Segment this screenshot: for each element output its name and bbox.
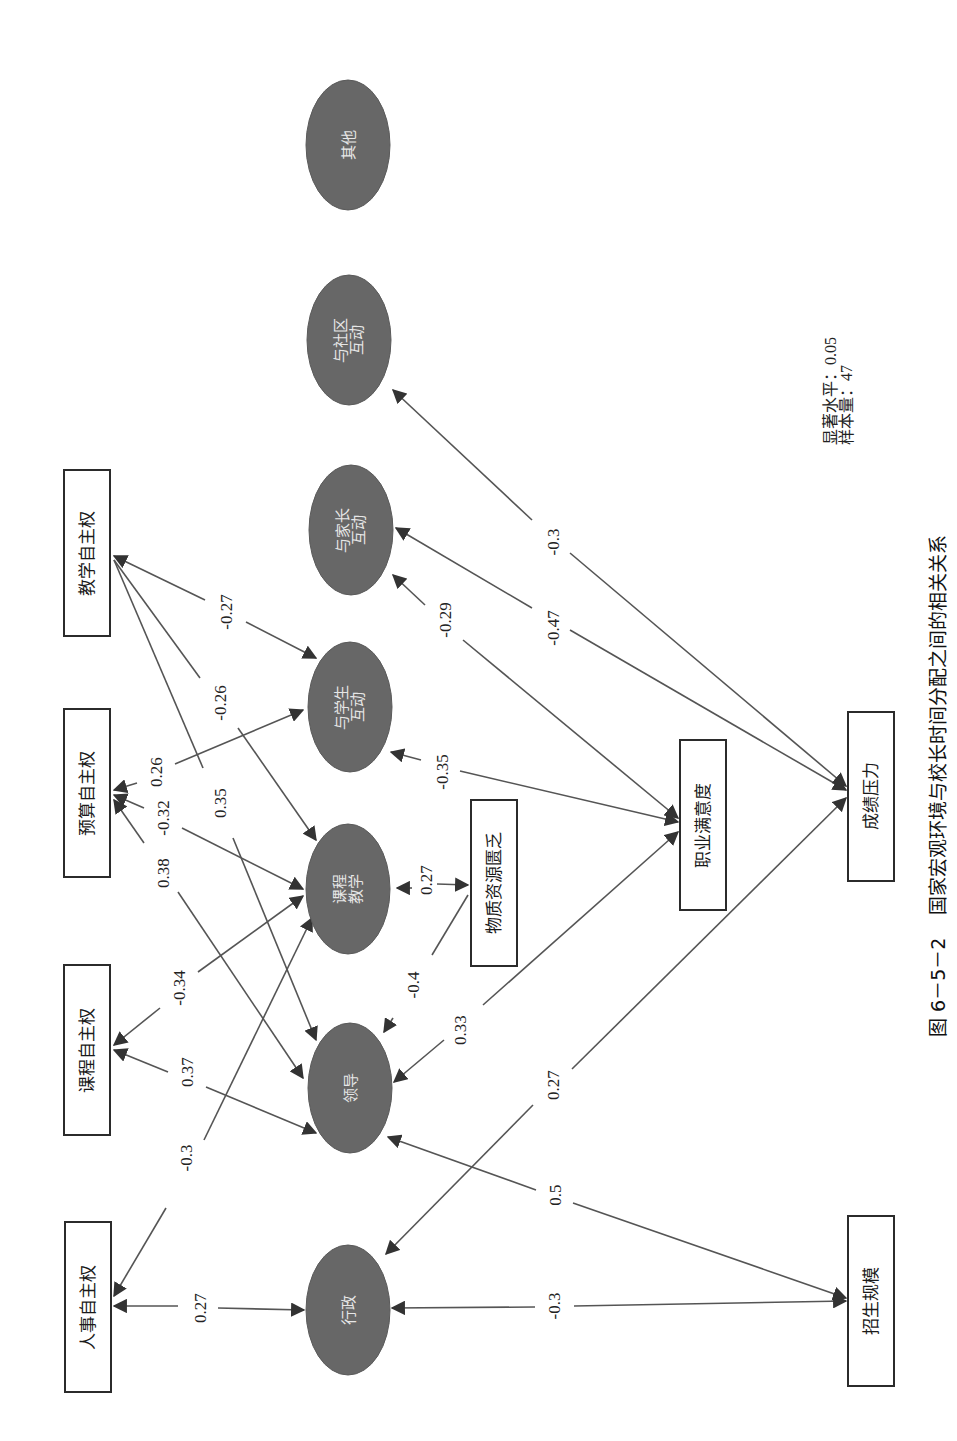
significance-note: 显著水平：0.05 样本量：47: [822, 337, 855, 445]
edge-yusuan-xuesheng: [114, 783, 137, 790]
node-kecheng-jiaoxue: 课程 教学: [306, 824, 390, 954]
edge-kczzq-kcjx-2: [198, 896, 303, 972]
node-xingzheng: 行政: [306, 1245, 390, 1375]
weight-label: 0.38: [154, 858, 173, 888]
edge-zhaosheng-lingdao: [388, 1137, 536, 1190]
weight-label: -0.4: [404, 971, 423, 998]
node-label-line2: 互动: [350, 515, 368, 545]
edge-kczzq-kcjx: [114, 1008, 160, 1045]
weight-label: 0.27: [544, 1070, 563, 1100]
edge-jiaoxue-kcjx-2: [238, 728, 316, 840]
edge-jiaoxue-lingdao-2: [233, 838, 316, 1040]
node-label: 招生规模: [861, 1267, 881, 1335]
edge-zhaosheng-xingzheng: [392, 1307, 535, 1308]
node-chengji: 成绩压力: [848, 712, 894, 881]
weight-label: 0.26: [147, 757, 166, 787]
edge-chengji-xingzheng: [386, 1105, 533, 1254]
weight-label: 0.5: [546, 1184, 565, 1205]
weight-label: 0.27: [191, 1293, 210, 1323]
node-label-line2: 互动: [348, 325, 366, 355]
edge-wuzhi-kcjx-2: [437, 884, 468, 885]
weight-label: -0.27: [217, 594, 236, 630]
weight-label: 0.33: [451, 1015, 470, 1045]
node-label: 课程自主权: [77, 1008, 97, 1093]
node-jiaoxue: 教学自主权: [64, 470, 110, 636]
weight-label: -0.3: [544, 529, 563, 556]
weight-label: -0.47: [544, 610, 563, 646]
node-kecheng-zizhuquan: 课程自主权: [64, 965, 110, 1135]
weight-label: -0.29: [436, 602, 455, 637]
weight-label: 0.35: [211, 788, 230, 818]
node-label: 预算自主权: [77, 751, 97, 836]
edge-wuzhi-lingdao: [384, 1018, 393, 1032]
weight-label: -0.35: [433, 754, 452, 789]
edge-zhaosheng-xingzheng-2: [574, 1301, 846, 1306]
node-label: 成绩压力: [861, 762, 881, 830]
caption-title: 国家宏观环境与校长时间分配之间的相关关系: [927, 535, 949, 915]
weight-label: 0.37: [178, 1057, 197, 1087]
node-xuesheng: 与学生 互动: [308, 642, 392, 772]
weight-label: 0.27: [417, 865, 436, 895]
edge-kczzq-zhaosheng-2: [206, 1087, 316, 1133]
weight-label: -0.3: [177, 1145, 196, 1172]
edge-yusuan-kcjx-2: [182, 828, 303, 889]
node-label: 其他: [340, 130, 358, 160]
edge-zhiye-jiazhang-2: [463, 640, 678, 818]
node-label: 职业满意度: [693, 783, 713, 868]
node-label: 领导: [342, 1073, 360, 1103]
edge-zhiye-xuesheng: [391, 752, 421, 760]
edge-chengji-shequ: [393, 390, 532, 520]
edge-zhaosheng-lingdao-2: [573, 1203, 846, 1298]
edge-kczzq-zhaosheng: [114, 1050, 168, 1072]
correlation-diagram: -0.27 -0.26 0.35 0.26 -0.32 0.38 -0.34 0…: [0, 0, 957, 1441]
edge-renshi-kcjx-2: [204, 918, 312, 1140]
node-shequ: 与社区 互动: [307, 275, 391, 405]
weight-label: -0.32: [154, 800, 173, 835]
node-label-line2: 教学: [347, 874, 365, 904]
node-label: 行政: [340, 1295, 358, 1325]
node-renshi: 人事自主权: [65, 1222, 111, 1392]
node-lingdao: 领导: [308, 1023, 392, 1153]
node-zhaosheng: 招生规模: [848, 1216, 894, 1386]
edge-zhiye-lingdao: [394, 1040, 444, 1082]
node-label-line2: 互动: [349, 692, 367, 722]
edge-yusuan-lingdao-2: [178, 892, 303, 1078]
edge-zhiye-jiazhang: [393, 575, 425, 605]
edge-renshi-kcjx: [114, 1208, 166, 1296]
sample-size: 样本量：47: [838, 365, 855, 445]
edge-jiaoxue-xuesheng-2: [246, 622, 316, 658]
figure-caption: 图 6－5－2 国家宏观环境与校长时间分配之间的相关关系: [927, 535, 949, 1037]
weight-label: -0.26: [211, 685, 230, 720]
weight-label: -0.34: [170, 970, 189, 1006]
node-qita: 其他: [306, 80, 390, 210]
edge-yusuan-xuesheng-2: [175, 710, 303, 764]
caption-number: 图 6－5－2: [927, 938, 949, 1037]
node-label: 人事自主权: [78, 1265, 98, 1350]
weight-label: -0.3: [545, 1293, 564, 1320]
edge-wuzhi-lingdao-2: [432, 895, 468, 955]
node-label: 物质资源匮乏: [484, 832, 504, 934]
node-jiazhang: 与家长 互动: [309, 465, 393, 595]
node-label: 教学自主权: [77, 511, 97, 596]
significance-level: 显著水平：0.05: [822, 337, 839, 445]
edge-renshi-xingzheng-2: [218, 1308, 304, 1310]
node-yusuan: 预算自主权: [64, 709, 110, 877]
node-wuzhi: 物质资源匮乏: [471, 800, 517, 966]
node-zhiye: 职业满意度: [680, 740, 726, 910]
